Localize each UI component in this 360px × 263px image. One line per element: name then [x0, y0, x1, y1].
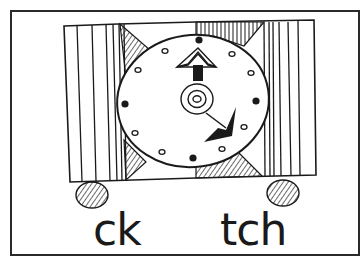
hour-marker-12: [195, 36, 202, 43]
hour-marker-3: [252, 97, 259, 104]
phonics-label-tch: tch: [220, 208, 286, 252]
hour-marker-6: [189, 154, 196, 161]
phonics-label-ck: ck: [93, 208, 141, 252]
clock-hub: [181, 84, 213, 114]
right-wheel: [267, 180, 299, 206]
hour-marker-9: [121, 100, 128, 107]
